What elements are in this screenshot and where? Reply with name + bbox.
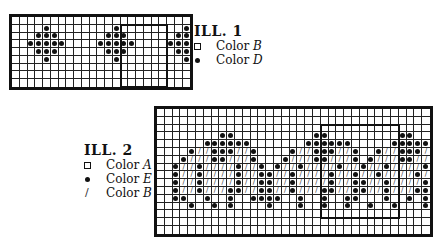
empty-cell: [368, 218, 376, 226]
dot-cell: [28, 40, 36, 48]
empty-cell: [305, 210, 313, 218]
empty-cell: [243, 226, 251, 234]
empty-cell: [196, 125, 204, 133]
empty-cell: [313, 195, 321, 203]
empty-cell: [180, 109, 188, 117]
empty-cell: [173, 117, 181, 125]
slash-cell: [375, 187, 383, 195]
slash-cell: [407, 187, 415, 195]
empty-cell: [12, 71, 20, 79]
dot-cell: [43, 25, 51, 33]
empty-cell: [43, 71, 51, 79]
empty-cell: [329, 195, 337, 203]
empty-cell: [258, 109, 266, 117]
legend-item-color-b: Color B: [194, 39, 263, 53]
empty-cell: [157, 164, 165, 172]
empty-cell: [167, 48, 175, 56]
empty-cell: [157, 140, 165, 148]
empty-cell: [59, 79, 67, 87]
empty-cell: [391, 125, 399, 133]
empty-cell: [165, 195, 173, 203]
empty-cell: [383, 109, 391, 117]
empty-cell: [183, 64, 191, 72]
empty-cell: [35, 79, 43, 87]
empty-cell: [313, 117, 321, 125]
empty-cell: [321, 218, 329, 226]
empty-cell: [167, 79, 175, 87]
empty-cell: [352, 125, 360, 133]
dot-cell: [183, 40, 191, 48]
empty-cell: [183, 71, 191, 79]
empty-cell: [159, 64, 167, 72]
empty-cell: [28, 56, 36, 64]
empty-cell: [173, 210, 181, 218]
empty-cell: [90, 33, 98, 41]
dot-cell: [329, 140, 337, 148]
empty-cell: [152, 40, 160, 48]
empty-cell: [414, 203, 422, 211]
empty-cell: [165, 148, 173, 156]
dot-cell: [183, 33, 191, 41]
dot-cell: [219, 140, 227, 148]
empty-cell: [196, 195, 204, 203]
empty-cell: [313, 203, 321, 211]
ill1-chart-grid: [9, 14, 193, 90]
dot-cell: [258, 195, 266, 203]
empty-cell: [97, 79, 105, 87]
empty-cell: [167, 33, 175, 41]
empty-cell: [20, 64, 28, 72]
empty-cell: [336, 109, 344, 117]
dot-cell: [266, 187, 274, 195]
empty-cell: [375, 226, 383, 234]
empty-cell: [251, 218, 259, 226]
dot-cell: [274, 195, 282, 203]
ill1-legend: ILL. 1 Color B Color D: [194, 24, 263, 67]
empty-cell: [290, 226, 298, 234]
empty-cell: [165, 179, 173, 187]
empty-cell: [157, 156, 165, 164]
dot-cell: [105, 48, 113, 56]
empty-cell: [175, 79, 183, 87]
empty-cell: [180, 117, 188, 125]
empty-cell: [266, 109, 274, 117]
empty-cell: [336, 218, 344, 226]
empty-cell: [352, 210, 360, 218]
empty-cell: [180, 132, 188, 140]
empty-cell: [305, 218, 313, 226]
empty-cell: [329, 203, 337, 211]
dot-cell: [321, 187, 329, 195]
empty-cell: [305, 226, 313, 234]
empty-cell: [360, 125, 368, 133]
dot-cell: [173, 187, 181, 195]
empty-cell: [175, 56, 183, 64]
slash-cell: [290, 164, 298, 172]
empty-cell: [144, 33, 152, 41]
empty-cell: [204, 117, 212, 125]
empty-cell: [12, 33, 20, 41]
empty-cell: [180, 203, 188, 211]
empty-cell: [368, 109, 376, 117]
dot-cell: [51, 48, 59, 56]
empty-cell: [136, 71, 144, 79]
empty-cell: [152, 64, 160, 72]
empty-cell: [219, 117, 227, 125]
empty-cell: [344, 117, 352, 125]
empty-cell: [136, 56, 144, 64]
slash-cell: [235, 156, 243, 164]
dot-cell: [180, 195, 188, 203]
slash-cell: [282, 187, 290, 195]
empty-cell: [282, 226, 290, 234]
empty-cell: [375, 195, 383, 203]
empty-cell: [136, 33, 144, 41]
dot-cell: [297, 195, 305, 203]
empty-cell: [344, 218, 352, 226]
empty-cell: [258, 218, 266, 226]
empty-cell: [188, 195, 196, 203]
empty-cell: [173, 226, 181, 234]
empty-cell: [82, 40, 90, 48]
dot-cell: [258, 179, 266, 187]
empty-cell: [20, 33, 28, 41]
empty-cell: [258, 156, 266, 164]
empty-cell: [20, 71, 28, 79]
slash-cell: [212, 187, 220, 195]
